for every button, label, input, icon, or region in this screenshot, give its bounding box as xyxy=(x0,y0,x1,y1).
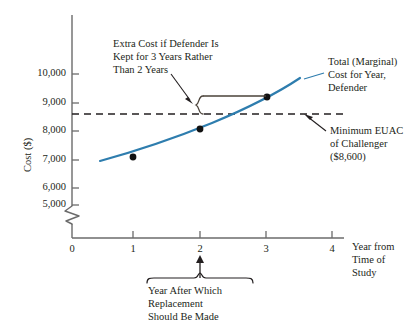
extra-cost-note-line2: Kept for 3 Years Rather xyxy=(113,51,212,64)
y-tick-label-6000: 6,000 xyxy=(10,181,66,192)
replacement-year-arrowhead xyxy=(196,255,204,263)
data-point-year1 xyxy=(130,154,137,161)
x-axis-title-line2: Time of xyxy=(352,254,385,267)
min-euac-label-line3: ($8,600) xyxy=(330,151,366,164)
x-tick-marks xyxy=(133,231,332,238)
extra-cost-note-line1: Extra Cost if Defender Is xyxy=(113,38,219,51)
data-point-year3 xyxy=(264,94,271,101)
y-tick-label-7000: 7,000 xyxy=(10,153,66,164)
replacement-year-note-line1: Year After Which xyxy=(148,285,222,298)
y-axis-break-icon xyxy=(65,206,79,224)
x-tick-label-1: 1 xyxy=(121,243,145,254)
extra-cost-brace xyxy=(196,96,203,114)
y-tick-label-9000: 9,000 xyxy=(10,96,66,107)
data-point-year2 xyxy=(197,126,204,133)
defender-curve-label-line2: Cost for Year, xyxy=(328,69,386,82)
data-point-markers xyxy=(130,94,271,161)
x-tick-label-3: 3 xyxy=(254,243,278,254)
y-tick-label-8000: 8,000 xyxy=(10,124,66,135)
min-euac-label-line2: of Challenger xyxy=(330,138,387,151)
defender-curve-label-line3: Defender xyxy=(328,82,367,95)
min-euac-label-line1: Minimum EUAC xyxy=(330,125,403,138)
extra-cost-leader-line xyxy=(171,74,190,100)
extra-cost-note-line3: Than 2 Years xyxy=(113,64,168,77)
y-tick-marks xyxy=(72,74,79,205)
x-axis-title-line1: Year from xyxy=(352,241,394,254)
euac-arrowhead xyxy=(304,114,313,120)
defender-cost-curve xyxy=(100,78,300,161)
x-axis-title-line3: Study xyxy=(352,267,377,280)
y-tick-label-10000: 10,000 xyxy=(10,67,66,78)
x-tick-label-4: 4 xyxy=(320,243,344,254)
x-tick-label-0: 0 xyxy=(60,243,84,254)
defender-curve-label-line1: Total (Marginal) xyxy=(328,56,397,69)
replacement-year-note-line3: Should Be Made xyxy=(148,311,219,322)
curve-label-leader-line xyxy=(304,73,324,79)
replacement-year-note-line2: Replacement xyxy=(148,298,203,311)
y-tick-label-5000: 5,000 xyxy=(10,198,66,209)
x-tick-label-2: 2 xyxy=(188,243,212,254)
